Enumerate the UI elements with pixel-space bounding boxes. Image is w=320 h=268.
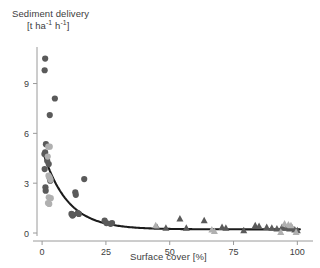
data-point-circle [42, 56, 48, 62]
data-point-circle [46, 201, 52, 207]
data-point-circle [47, 177, 53, 183]
data-point-triangle [162, 224, 169, 231]
data-point-triangle [201, 217, 208, 224]
y-tick-label: 6 [24, 129, 29, 139]
data-point-circle [76, 211, 82, 217]
data-point-triangle [152, 222, 159, 229]
data-point-circle [43, 188, 49, 194]
y-tick-label: 0 [24, 229, 29, 239]
x-tick-label: 0 [40, 247, 45, 257]
x-tick-label: 50 [165, 247, 175, 257]
y-tick-label: 3 [24, 179, 29, 189]
data-point-circle [42, 166, 48, 172]
x-tick-label: 100 [290, 247, 305, 257]
fit-curve [45, 157, 300, 230]
data-point-circle [52, 95, 58, 101]
x-tick-label: 25 [101, 247, 111, 257]
data-point-triangle [183, 224, 190, 231]
fit-curve-group [45, 157, 300, 230]
data-point-triangle [268, 224, 275, 231]
data-point-circle [42, 67, 48, 73]
chart-figure: Sediment delivery [t ha-1 h-1] Surface c… [0, 0, 320, 268]
scatter-plot: 03690255075100 [0, 0, 320, 268]
data-point-circle [109, 220, 115, 226]
x-tick-label: 75 [229, 247, 239, 257]
data-point-triangle [263, 223, 270, 230]
data-point-circle [73, 192, 79, 198]
data-point-triangle [176, 215, 183, 222]
data-point-circle [47, 144, 53, 150]
y-tick-label: 9 [24, 79, 29, 89]
data-point-circle [47, 112, 53, 118]
data-point-circle [46, 161, 52, 167]
data-point-circle [45, 154, 51, 160]
data-point-circle [81, 176, 87, 182]
data-points-group [41, 56, 301, 235]
